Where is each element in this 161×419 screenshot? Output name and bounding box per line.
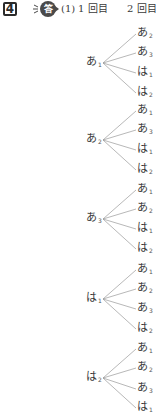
tree-leaf: あ2 xyxy=(137,361,153,376)
tree-leaf: あ3 xyxy=(137,46,153,61)
tree-leaf: あ1 xyxy=(137,263,153,278)
tree-leaf: あ3 xyxy=(137,382,153,397)
tree-diagram-3: あ3 あ1 あ2 は1 は2 xyxy=(0,179,161,259)
tree-leaf: は2 xyxy=(137,322,153,337)
answer-header: 4 答 (1) 1 回目 2 回目 xyxy=(0,0,161,20)
tree-root: は2 xyxy=(86,371,102,386)
tree-root: あ1 xyxy=(86,56,102,71)
tree-root: あ2 xyxy=(86,133,102,148)
column-header-second-draw: 2 回目 xyxy=(127,3,157,15)
tree-diagram-5: は2 あ1 あ2 あ3 は1 xyxy=(0,338,161,418)
tree-leaf: は1 xyxy=(137,222,153,237)
tree-diagram-4: は1 あ1 あ2 あ3 は2 xyxy=(0,259,161,339)
tree-diagram-2: あ2 あ1 あ3 は1 は2 xyxy=(0,100,161,180)
tree-diagram-1: あ1 あ2 あ3 は1 は2 xyxy=(0,22,161,102)
tree-root: は1 xyxy=(86,292,102,307)
answer-badge-icon: 答 xyxy=(40,1,56,17)
tree-leaf: は1 xyxy=(137,401,153,416)
question-number-box: 4 xyxy=(3,2,17,16)
tree-leaf: は2 xyxy=(137,86,153,101)
part-label: (1) xyxy=(61,3,75,15)
column-second-text: 回目 xyxy=(137,3,157,14)
tree-leaf: あ3 xyxy=(137,123,153,138)
tree-leaf: あ2 xyxy=(137,202,153,217)
column-second-number: 2 xyxy=(127,3,133,14)
tree-leaf: は1 xyxy=(137,66,153,81)
tree-leaf: は2 xyxy=(137,163,153,178)
column-header-first-draw: 1 回目 xyxy=(78,3,108,15)
column-first-text: 回目 xyxy=(88,3,108,14)
column-first-number: 1 xyxy=(78,3,84,14)
arrow-right-icon xyxy=(55,6,59,12)
tree-leaf: あ2 xyxy=(137,27,153,42)
tree-leaf: あ2 xyxy=(137,282,153,297)
tree-leaf: あ1 xyxy=(137,183,153,198)
tree-leaf: あ1 xyxy=(137,104,153,119)
tree-leaf: あ1 xyxy=(137,342,153,357)
tree-leaf: あ3 xyxy=(137,302,153,317)
sparkle-icon xyxy=(33,3,40,15)
tree-root: あ3 xyxy=(86,212,102,227)
tree-leaf: は1 xyxy=(137,143,153,158)
tree-leaf: は2 xyxy=(137,242,153,257)
